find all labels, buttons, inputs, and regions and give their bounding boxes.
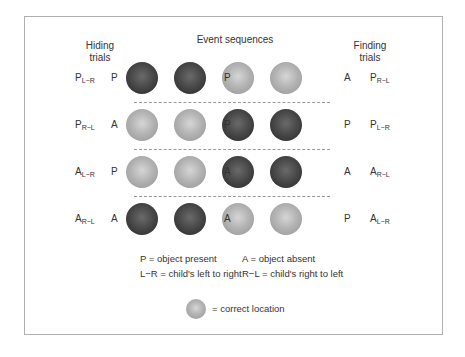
middle-event-label: A — [224, 166, 231, 178]
hiding-trial-label: PR−L — [75, 119, 95, 134]
last-event-label: A — [344, 166, 351, 178]
hiding-header-line1: Hiding — [70, 40, 130, 52]
hiding-trial-sub: L−R — [82, 171, 95, 178]
hiding-trial-main: P — [75, 119, 82, 130]
finding-trial-sub: R−L — [377, 171, 390, 178]
correct-location-ball-icon — [174, 156, 206, 188]
legend-left-to-right: L−R = child's left to right — [140, 268, 242, 279]
first-event-label: A — [111, 213, 118, 225]
finding-trial-main: A — [370, 166, 377, 177]
hiding-trial-label: AL−R — [75, 166, 95, 181]
hiding-trial-sub: R−L — [82, 218, 95, 225]
incorrect-location-ball-icon — [126, 203, 158, 235]
row-divider — [134, 102, 330, 103]
hiding-header-line2: trials — [70, 52, 130, 64]
hiding-trials-header: Hiding trials — [70, 40, 130, 64]
hiding-trial-sub: L−R — [82, 77, 95, 84]
finding-trial-label: AL−R — [370, 213, 390, 228]
row-divider — [134, 196, 330, 197]
incorrect-location-ball-icon — [174, 203, 206, 235]
correct-location-ball-icon — [126, 109, 158, 141]
event-sequences-header: Event sequences — [180, 34, 290, 46]
finding-trials-header: Finding trials — [340, 40, 400, 64]
last-event-label: A — [344, 72, 351, 84]
row-divider — [134, 149, 330, 150]
legend-correct-location: = correct location — [212, 303, 285, 314]
incorrect-location-ball-icon — [270, 109, 302, 141]
hiding-trial-main: P — [75, 72, 82, 83]
correct-location-ball-icon — [186, 299, 206, 319]
finding-header-line1: Finding — [340, 40, 400, 52]
finding-trial-sub: R−L — [377, 77, 390, 84]
first-event-label: P — [111, 72, 118, 84]
legend-present: P = object present — [140, 253, 217, 264]
hiding-trial-main: A — [75, 166, 82, 177]
middle-event-label: P — [224, 119, 231, 131]
hiding-trial-label: PL−R — [75, 72, 95, 87]
finding-trial-sub: L−R — [377, 124, 390, 131]
legend-absent: A = object absent — [242, 253, 315, 264]
correct-location-ball-icon — [174, 109, 206, 141]
finding-trial-label: PR−L — [370, 72, 390, 87]
incorrect-location-ball-icon — [270, 156, 302, 188]
legend-right-to-left: R−L = child's right to left — [242, 268, 343, 279]
correct-location-ball-icon — [270, 203, 302, 235]
hiding-trial-sub: R−L — [82, 124, 95, 131]
finding-header-line2: trials — [340, 52, 400, 64]
finding-trial-sub: L−R — [377, 218, 390, 225]
finding-trial-label: PL−R — [370, 119, 390, 134]
finding-trial-main: A — [370, 213, 377, 224]
first-event-label: A — [111, 119, 118, 131]
first-event-label: P — [111, 166, 118, 178]
last-event-label: P — [344, 119, 351, 131]
incorrect-location-ball-icon — [174, 62, 206, 94]
incorrect-location-ball-icon — [126, 62, 158, 94]
last-event-label: P — [344, 213, 351, 225]
finding-trial-label: AR−L — [370, 166, 390, 181]
hiding-trial-label: AR−L — [75, 213, 95, 228]
finding-trial-main: P — [370, 119, 377, 130]
hiding-trial-main: A — [75, 213, 82, 224]
finding-trial-main: P — [370, 72, 377, 83]
correct-location-ball-icon — [126, 156, 158, 188]
correct-location-ball-icon — [270, 62, 302, 94]
middle-event-label: A — [224, 213, 231, 225]
middle-event-label: P — [224, 72, 231, 84]
